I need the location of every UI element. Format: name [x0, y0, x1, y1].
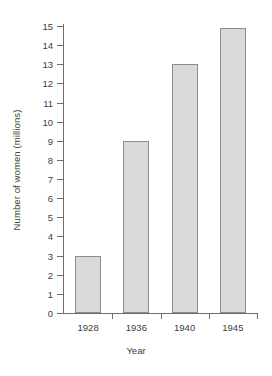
y-axis-tick-label: 14 — [13, 41, 53, 50]
y-axis-tick-label: 1 — [13, 290, 53, 299]
y-axis-tick — [57, 179, 63, 180]
y-axis-tick — [57, 313, 63, 314]
x-axis-tick — [112, 314, 113, 319]
y-axis-tick-label: 10 — [13, 118, 53, 127]
bar — [220, 28, 246, 313]
y-axis-tick — [57, 198, 63, 199]
y-axis-tick — [57, 45, 63, 46]
y-axis-tick-label: 12 — [13, 79, 53, 88]
y-axis-tick — [57, 103, 63, 104]
y-axis-tick — [57, 236, 63, 237]
y-axis-tick — [57, 64, 63, 65]
y-axis-tick-label: 11 — [13, 99, 53, 108]
y-axis-tick — [57, 275, 63, 276]
y-axis-tick-label: 2 — [13, 271, 53, 280]
y-axis-tick-label: 5 — [13, 213, 53, 222]
y-axis-tick — [57, 141, 63, 142]
y-axis-tick-label: 3 — [13, 252, 53, 261]
y-axis-tick-label: 15 — [13, 22, 53, 31]
x-axis-tick — [257, 314, 258, 319]
x-axis-tick — [209, 314, 210, 319]
y-axis-tick — [57, 217, 63, 218]
x-axis-title: Year — [0, 345, 272, 356]
y-axis-tick — [57, 83, 63, 84]
y-axis-line — [63, 24, 64, 314]
y-axis-tick — [57, 26, 63, 27]
bar — [172, 64, 198, 313]
y-axis-tick-label: 7 — [13, 175, 53, 184]
y-axis-tick-label: 0 — [13, 309, 53, 318]
bar — [123, 141, 149, 313]
y-axis-tick — [57, 256, 63, 257]
y-axis-tick-label: 8 — [13, 156, 53, 165]
y-axis-tick-label: 9 — [13, 137, 53, 146]
y-axis-tick — [57, 122, 63, 123]
y-axis-tick-label: 6 — [13, 194, 53, 203]
y-axis-tick — [57, 160, 63, 161]
y-axis-tick-label: 4 — [13, 232, 53, 241]
bar-chart: Number of women (millions) 0123456789101… — [0, 0, 272, 376]
y-axis-tick-label: 13 — [13, 60, 53, 69]
x-axis-tick — [161, 314, 162, 319]
bar — [75, 256, 101, 313]
y-axis-tick — [57, 294, 63, 295]
x-axis-tick-label: 1945 — [203, 322, 263, 333]
